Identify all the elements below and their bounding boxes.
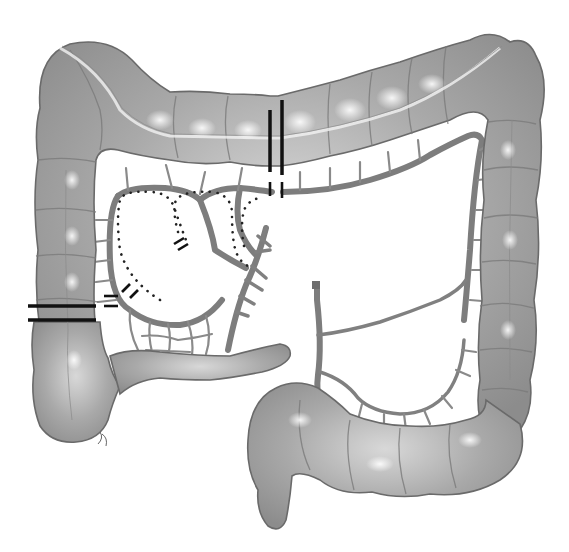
appendix [98, 432, 107, 446]
colon-diagram [0, 0, 569, 552]
cecum [32, 322, 120, 442]
colon-illustration [0, 0, 569, 552]
vessel-ligation-ileocolic [122, 284, 138, 298]
terminal-ileum [110, 344, 290, 394]
